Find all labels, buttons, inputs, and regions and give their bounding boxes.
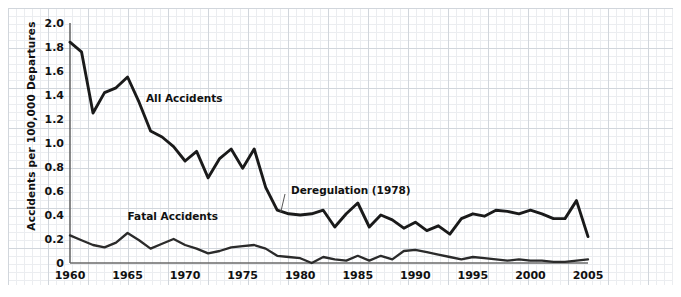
y-tick-label: 2.0 [45, 17, 65, 30]
y-tick-label: 0 [56, 257, 64, 270]
x-tick-label: 1980 [285, 269, 316, 282]
y-tick-label: 0.8 [45, 161, 65, 174]
series-line-all-accidents [70, 42, 588, 236]
x-tick-label: 1995 [458, 269, 489, 282]
y-tick-label: 1.6 [45, 65, 65, 78]
x-tick-label: 2000 [515, 269, 546, 282]
series-inline-label: All Accidents [146, 92, 223, 104]
y-tick-label: 1.4 [45, 89, 65, 102]
y-tick-label: 1.2 [45, 113, 65, 126]
y-tick-label: 1.0 [45, 137, 65, 150]
series-inline-label: Fatal Accidents [128, 210, 219, 222]
y-tick-label: 1.8 [45, 41, 65, 54]
x-tick-label: 1970 [170, 269, 201, 282]
y-tick-label: 0.6 [45, 185, 65, 198]
x-tick-label: 1975 [227, 269, 258, 282]
x-tick-label: 2005 [573, 269, 604, 282]
x-tick-label: 1960 [55, 269, 86, 282]
y-tick-label: 0.2 [45, 233, 65, 246]
y-tick-label: 0.4 [45, 209, 65, 222]
x-tick-label: 1985 [342, 269, 373, 282]
chart-container: Accidents per 100,000 Departures 00.20.4… [0, 0, 681, 297]
annotation-label: Deregulation (1978) [291, 184, 411, 196]
series-line-fatal-accidents [70, 233, 588, 263]
x-tick-label: 1990 [400, 269, 431, 282]
chart-plot-area [0, 0, 681, 297]
x-tick-label: 1965 [112, 269, 143, 282]
annotation-leader-line [281, 194, 285, 213]
source-note-wrapper: SOURCE: National Transportation Safety B… [600, 0, 680, 297]
